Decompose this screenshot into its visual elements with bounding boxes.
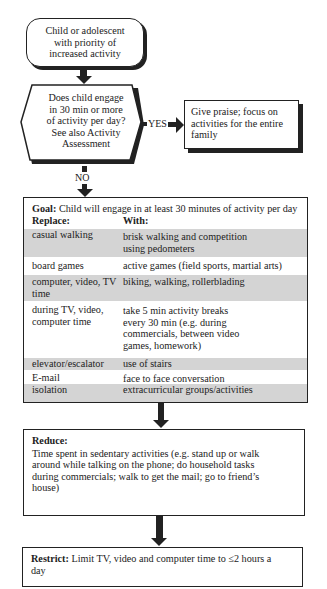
restrict-node: Restrict: Limit TV, video and computer t… xyxy=(22,547,303,587)
praise-node: Give praise; focus on activities for the… xyxy=(184,100,299,149)
arrow-down-icon xyxy=(151,538,167,546)
with-cell: take 5 min activity breaks every 30 min … xyxy=(123,305,253,351)
reduce-label: Reduce: xyxy=(32,435,296,447)
arrow-right-icon xyxy=(176,117,184,133)
replace-cell: isolation xyxy=(32,384,117,396)
arrow-shaft xyxy=(156,516,163,539)
table-header: Replace: With: xyxy=(24,215,307,229)
start-text: Child or adolescent with priority of inc… xyxy=(45,25,124,60)
start-line: with priority of xyxy=(45,37,124,49)
with-cell: use of stairs xyxy=(123,358,303,370)
yes-label: YES xyxy=(148,118,167,129)
column-header-replace: Replace: xyxy=(32,215,117,227)
decision-line: Does child engage xyxy=(38,92,134,104)
replace-cell: computer, video, TV time xyxy=(32,276,117,299)
arrow-shaft xyxy=(158,403,164,421)
table-row: board games active games (field sports, … xyxy=(24,258,307,274)
decision-line: Assessment xyxy=(38,138,134,150)
with-cell: extracurricular groups/activities xyxy=(123,384,303,396)
goal-node: Goal: Child will engage in at least 30 m… xyxy=(23,197,308,403)
table-row: E-mail face to face conversation xyxy=(24,371,307,384)
start-node: Child or adolescent with priority of inc… xyxy=(26,18,144,67)
with-cell: brisk walking and competition using pedo… xyxy=(123,231,263,254)
with-cell: face to face conversation xyxy=(123,373,303,385)
table-row: casual walking brisk walking and competi… xyxy=(24,229,307,257)
arrow-down-icon xyxy=(76,76,92,84)
decision-line: See also Activity xyxy=(38,127,134,139)
reduce-text: Time spent in sedentary activities (e.g.… xyxy=(32,448,272,494)
decision-line: in 30 min or more xyxy=(38,104,134,116)
restrict-content: Restrict: Limit TV, video and computer t… xyxy=(31,553,286,576)
replace-cell: board games xyxy=(32,260,117,272)
reduce-node: Reduce: Time spent in sedentary activiti… xyxy=(23,429,305,516)
with-cell: active games (field sports, martial arts… xyxy=(123,260,308,272)
replace-cell: during TV, video, computer time xyxy=(32,304,117,327)
table-row: during TV, video, computer time take 5 m… xyxy=(24,302,307,356)
column-header-with: With: xyxy=(123,215,303,227)
no-label: NO xyxy=(75,172,89,183)
goal-header: Goal: Child will engage in at least 30 m… xyxy=(32,203,307,215)
start-line: Child or adolescent xyxy=(45,25,124,37)
replace-cell: casual walking xyxy=(32,229,117,241)
arrow-shaft xyxy=(143,122,147,126)
replace-cell: E-mail xyxy=(32,372,117,384)
goal-label: Goal: xyxy=(32,203,56,214)
arrow-down-icon xyxy=(77,189,93,197)
decision-line: of activity per day? xyxy=(38,115,134,127)
restrict-label: Restrict: xyxy=(31,553,69,564)
with-cell: biking, walking, rollerblading xyxy=(123,276,303,288)
decision-text: Does child engage in 30 min or more of a… xyxy=(38,92,134,150)
table-row: computer, video, TV time biking, walking… xyxy=(24,275,307,301)
arrow-down-icon xyxy=(153,420,169,428)
start-line: increased activity xyxy=(45,48,124,60)
goal-text: Child will engage in at least 30 minutes… xyxy=(59,203,298,214)
table-row: elevator/escalator use of stairs xyxy=(24,358,307,370)
table-row: isolation extracurricular groups/activit… xyxy=(24,384,307,402)
replace-cell: elevator/escalator xyxy=(32,358,117,370)
